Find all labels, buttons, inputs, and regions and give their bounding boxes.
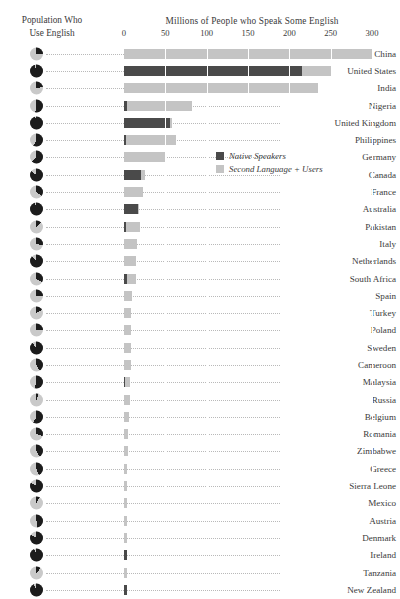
chart-row[interactable]: Mexico: [0, 495, 400, 512]
stacked-bar[interactable]: [124, 498, 127, 508]
pie-wedge: [30, 583, 43, 596]
stacked-bar[interactable]: [124, 274, 136, 284]
stacked-bar[interactable]: [124, 429, 128, 439]
stacked-bar[interactable]: [124, 360, 131, 370]
chart-row[interactable]: Greece: [0, 460, 400, 477]
stacked-bar[interactable]: [124, 568, 127, 578]
stacked-bar[interactable]: [124, 464, 127, 474]
stacked-bar[interactable]: [124, 187, 143, 197]
chart-row[interactable]: Nigeria: [0, 97, 400, 114]
pie-wedge: [30, 410, 43, 423]
country-label: Denmark: [281, 532, 400, 543]
stacked-bar[interactable]: [124, 170, 145, 180]
x-tick-0: 0: [122, 28, 126, 38]
stacked-bar[interactable]: [124, 533, 127, 543]
legend-item[interactable]: Native Speakers: [216, 150, 323, 161]
stacked-bar[interactable]: [124, 412, 129, 422]
stacked-bar[interactable]: [124, 135, 176, 145]
stacked-bar[interactable]: [124, 395, 130, 405]
stacked-bar[interactable]: [124, 66, 331, 76]
stacked-bar[interactable]: [124, 204, 139, 214]
stacked-bar[interactable]: [124, 343, 131, 353]
bar-segment-second-language: [124, 308, 131, 318]
country-label: Russia: [281, 394, 400, 405]
chart-row[interactable]: Romania: [0, 426, 400, 443]
chart-row[interactable]: New Zealand: [0, 581, 400, 598]
pie-chart-icon: [30, 82, 43, 95]
bar-segment-second-language: [124, 395, 130, 405]
chart-row[interactable]: Tanzania: [0, 564, 400, 581]
pie-wedge: [30, 116, 43, 129]
stacked-bar[interactable]: [124, 550, 127, 560]
stacked-bar[interactable]: [124, 377, 130, 387]
chart-row[interactable]: France: [0, 183, 400, 200]
bar-segment-second-language: [124, 343, 131, 353]
stacked-bar[interactable]: [124, 585, 127, 595]
chart-row[interactable]: Zimbabwe: [0, 443, 400, 460]
x-tick-100: 100: [200, 28, 213, 38]
stacked-bar[interactable]: [124, 446, 128, 456]
chart-row[interactable]: Netherlands: [0, 253, 400, 270]
legend-label: Native Speakers: [229, 151, 286, 161]
chart-row[interactable]: South Africa: [0, 270, 400, 287]
chart-row[interactable]: Austria: [0, 512, 400, 529]
chart-row[interactable]: China: [0, 45, 400, 62]
chart-row[interactable]: Philippines: [0, 131, 400, 148]
stacked-bar[interactable]: [124, 308, 131, 318]
country-label: Ireland: [281, 550, 400, 561]
stacked-bar[interactable]: [124, 239, 137, 249]
chart-row[interactable]: Sierra Leone: [0, 477, 400, 494]
pie-wedge: [30, 445, 43, 458]
stacked-bar[interactable]: [124, 222, 140, 232]
chart-row[interactable]: Ireland: [0, 547, 400, 564]
stacked-bar[interactable]: [124, 516, 127, 526]
stacked-bar[interactable]: [124, 83, 318, 93]
x-tick-50: 50: [161, 28, 170, 38]
country-label: Netherlands: [281, 256, 400, 267]
chart-row[interactable]: Sweden: [0, 339, 400, 356]
stacked-bar[interactable]: [124, 152, 165, 162]
chart-row[interactable]: Poland: [0, 322, 400, 339]
chart-row[interactable]: India: [0, 80, 400, 97]
country-label: Sierra Leone: [281, 481, 400, 492]
chart-row[interactable]: Cameroon: [0, 356, 400, 373]
bar-segment-second-language: [141, 170, 145, 180]
pie-wedge: [30, 549, 43, 562]
chart-row[interactable]: Pakistan: [0, 218, 400, 235]
bar-segment-native: [124, 66, 302, 76]
bar-segment-native: [124, 585, 127, 595]
stacked-bar[interactable]: [124, 325, 131, 335]
pie-chart-icon: [30, 64, 43, 77]
chart-row[interactable]: Germany: [0, 149, 400, 166]
pie-chart-icon: [30, 289, 43, 302]
stacked-bar[interactable]: [124, 256, 136, 266]
chart-row[interactable]: Spain: [0, 287, 400, 304]
chart-row[interactable]: United Kingdom: [0, 114, 400, 131]
stacked-bar[interactable]: [124, 101, 192, 111]
chart-row[interactable]: Italy: [0, 235, 400, 252]
chart-row[interactable]: Denmark: [0, 529, 400, 546]
chart-row[interactable]: United States: [0, 62, 400, 79]
pie-wedge: [30, 324, 43, 337]
chart-row[interactable]: Belgium: [0, 408, 400, 425]
chart-row[interactable]: Malaysia: [0, 374, 400, 391]
stacked-bar[interactable]: [124, 291, 132, 301]
pie-chart-icon: [30, 497, 43, 510]
pie-wedge: [30, 237, 43, 250]
pie-chart-icon: [30, 514, 43, 527]
pie-wedge: [30, 428, 43, 441]
pie-chart-icon: [30, 203, 43, 216]
stacked-bar[interactable]: [124, 49, 372, 59]
bar-segment-second-language: [127, 274, 136, 284]
chart-row[interactable]: Canada: [0, 166, 400, 183]
legend-item[interactable]: Second Language + Users: [216, 163, 323, 174]
chart-row[interactable]: Turkey: [0, 304, 400, 321]
legend-swatch: [216, 152, 224, 160]
stacked-bar[interactable]: [124, 118, 172, 128]
pie-chart-icon: [30, 341, 43, 354]
chart-row[interactable]: Russia: [0, 391, 400, 408]
x-tick-300: 300: [366, 28, 379, 38]
chart-row[interactable]: Australia: [0, 201, 400, 218]
stacked-bar[interactable]: [124, 481, 127, 491]
